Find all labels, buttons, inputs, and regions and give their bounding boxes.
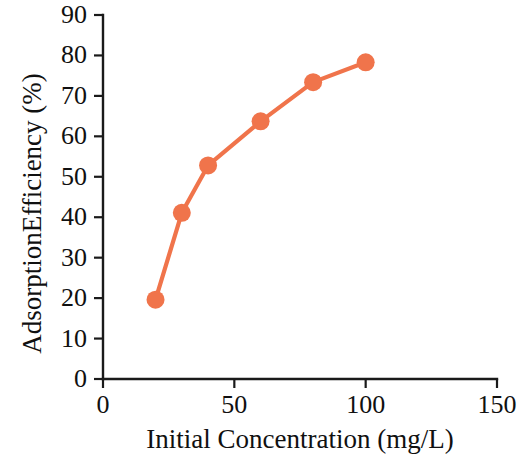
x-axis-title: Initial Concentration (mg/L) — [103, 424, 497, 455]
chart-container: 0102030405060708090 050100150 Adsorption… — [0, 0, 523, 458]
data-point — [147, 291, 165, 309]
chart-axes — [94, 15, 497, 388]
x-tick-label-0: 0 — [97, 392, 110, 418]
x-axis-ticks — [103, 379, 497, 388]
data-point — [252, 112, 270, 130]
data-point — [357, 53, 375, 71]
x-tick-label-150: 150 — [478, 392, 517, 418]
data-point — [304, 73, 322, 91]
data-point — [199, 156, 217, 174]
y-axis-title: AdsorptionEfficiency (%) — [17, 34, 48, 394]
x-tick-label-50: 50 — [221, 392, 247, 418]
series-line-adsorption-efficiency — [156, 62, 366, 299]
series-markers-adsorption-efficiency — [147, 53, 375, 308]
y-tick-label-90: 90 — [20, 2, 87, 28]
x-tick-label-100: 100 — [346, 392, 385, 418]
y-axis-ticks — [94, 15, 103, 379]
chart-series-group — [147, 53, 375, 308]
data-point — [173, 204, 191, 222]
